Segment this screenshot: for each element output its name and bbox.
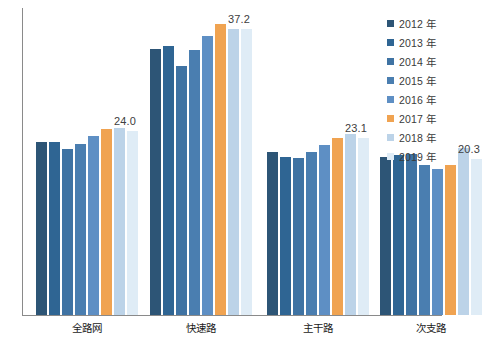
legend-item[interactable]: 2018 年 <box>387 128 451 146</box>
bar <box>380 157 391 315</box>
bar <box>432 169 443 315</box>
legend-label: 2014 年 <box>399 54 436 69</box>
category-label: 全路网 <box>36 320 138 335</box>
data-label: 20.3 <box>452 143 486 155</box>
bar-stack <box>150 8 252 315</box>
bar <box>49 142 60 315</box>
legend-item[interactable]: 2014 年 <box>387 52 451 70</box>
data-label: 24.0 <box>108 115 142 127</box>
legend-label: 2015 年 <box>399 73 436 88</box>
category-label: 次支路 <box>380 320 482 335</box>
legend-label: 2012 年 <box>399 16 436 31</box>
bar <box>189 50 200 315</box>
bar <box>306 152 317 315</box>
bar <box>293 158 304 315</box>
bar <box>406 154 417 315</box>
bar <box>75 144 86 315</box>
bar-stack <box>36 8 138 315</box>
x-axis-line <box>22 315 442 316</box>
legend-swatch-icon <box>387 115 394 122</box>
legend-swatch-icon <box>387 96 394 103</box>
legend-label: 2019 年 <box>399 149 436 164</box>
bar <box>88 136 99 315</box>
legend-swatch-icon <box>387 134 394 141</box>
bar <box>458 148 469 315</box>
legend-swatch-icon <box>387 58 394 65</box>
legend-swatch-icon <box>387 77 394 84</box>
bar <box>176 66 187 315</box>
legend-item[interactable]: 2016 年 <box>387 90 451 108</box>
legend-item[interactable]: 2017 年 <box>387 109 451 127</box>
data-label: 23.1 <box>339 122 373 134</box>
bar <box>241 29 252 315</box>
bar <box>127 131 138 315</box>
legend-label: 2016 年 <box>399 92 436 107</box>
category-label: 快速路 <box>150 320 252 335</box>
bar <box>267 152 278 315</box>
bar <box>114 128 125 315</box>
bar-stack <box>267 8 369 315</box>
bar <box>358 138 369 315</box>
bar <box>345 134 356 315</box>
legend-label: 2017 年 <box>399 111 436 126</box>
bar <box>445 165 456 315</box>
bar <box>280 157 291 315</box>
plot-area: 24.037.223.120.3 <box>22 8 442 316</box>
legend-item[interactable]: 2015 年 <box>387 71 451 89</box>
data-label: 37.2 <box>222 13 256 25</box>
category-label: 主干路 <box>267 320 369 335</box>
legend-label: 2018 年 <box>399 130 436 145</box>
legend-item[interactable]: 2019 年 <box>387 147 451 165</box>
legend-swatch-icon <box>387 39 394 46</box>
legend-swatch-icon <box>387 20 394 27</box>
bar <box>150 49 161 315</box>
legend-swatch-icon <box>387 153 394 160</box>
legend-label: 2013 年 <box>399 35 436 50</box>
bar-group: 37.2 <box>150 8 252 315</box>
bar <box>36 142 47 315</box>
y-axis-line <box>22 8 23 316</box>
bar <box>62 149 73 315</box>
bar <box>215 24 226 315</box>
bar <box>101 129 112 315</box>
bar <box>332 138 343 315</box>
bar <box>228 29 239 315</box>
bar <box>202 36 213 315</box>
bar <box>393 155 404 315</box>
bar-group: 24.0 <box>36 8 138 315</box>
bar <box>471 159 482 315</box>
bar <box>419 165 430 315</box>
bar-group: 23.1 <box>267 8 369 315</box>
legend-item[interactable]: 2013 年 <box>387 33 451 51</box>
legend-item[interactable]: 2012 年 <box>387 14 451 32</box>
bar <box>319 145 330 315</box>
bar <box>163 46 174 315</box>
legend: 2012 年2013 年2014 年2015 年2016 年2017 年2018… <box>387 14 451 166</box>
